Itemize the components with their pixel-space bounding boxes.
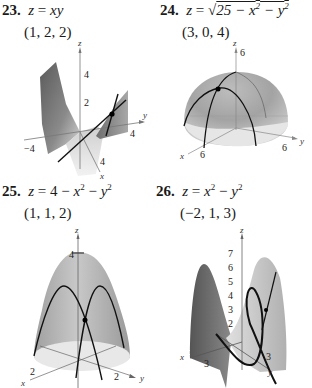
svg-text:y: y [267,367,272,377]
svg-text:6: 6 [240,47,245,58]
svg-text:2: 2 [30,366,35,377]
equation: z = √25 − x2 − y2 [183,2,289,18]
svg-text:y: y [299,136,304,146]
svg-text:z: z [239,225,244,235]
svg-text:3: 3 [266,351,271,362]
svg-text:2: 2 [228,318,233,329]
svg-text:4: 4 [84,69,89,80]
saddle-left-lobe [190,264,232,388]
exercise-number: 25. [2,183,21,199]
svg-text:6: 6 [200,149,205,160]
svg-text:2: 2 [84,97,89,108]
svg-text:6: 6 [228,262,233,273]
svg-text:z: z [232,38,237,48]
equation: z = xy [25,2,64,18]
svg-text:x: x [20,378,25,388]
svg-text:5: 5 [228,276,233,287]
svg-text:x: x [179,352,184,362]
svg-text:2: 2 [114,371,119,382]
svg-text:y: y [139,373,144,383]
y-axis-label: y [142,110,147,120]
exercise-25-header: 25. z = 4 − x2 − y2 [2,183,112,199]
svg-text:3: 3 [228,304,233,315]
saddle-right-lobe [226,257,287,372]
exercise-number: 26. [156,183,175,199]
x-axis-label: x [99,171,104,181]
svg-text:z: z [74,225,79,235]
equation: z = x2 − y2 [179,183,243,199]
exercise-number: 23. [2,2,21,18]
svg-text:−4: −4 [24,143,35,154]
svg-text:4: 4 [130,128,135,139]
surface-plot-23: z y x 4 2 4 −4 4 [18,44,148,179]
svg-text:7: 7 [228,248,233,259]
point-label: (1, 2, 2) [24,24,72,40]
exercise-24-header: 24. z = √25 − x2 − y2 [160,2,289,18]
surface-plot-24: z 6 x 6 6 y [170,44,310,169]
exercise-23-header: 23. z = xy [2,2,63,18]
surface-plot-25: z 4 x 2 2 y [20,230,150,388]
svg-text:4: 4 [69,249,74,260]
svg-text:3: 3 [204,358,209,369]
point-label: (1, 1, 2) [24,205,72,221]
exercise-26-header: 26. z = x2 − y2 [156,183,242,199]
surface-plot-26: z 7 6 5 4 3 2 x 3 3 y [180,230,310,388]
svg-text:x: x [179,151,184,161]
svg-text:6: 6 [282,142,287,153]
svg-text:4: 4 [228,290,233,301]
point-label: (−2, 1, 3) [180,205,236,221]
equation: z = 4 − x2 − y2 [25,183,112,199]
z-axis-label: z [77,38,82,48]
exercise-number: 24. [160,2,179,18]
point-label: (3, 0, 4) [182,24,230,40]
svg-text:4: 4 [100,156,105,167]
